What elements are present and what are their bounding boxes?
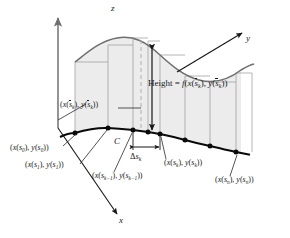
partition-dot	[106, 126, 111, 131]
sub-skm1-b: k−1	[129, 175, 138, 181]
point-label-sk-minus-1: (x(sk−1), y(sk−1))	[92, 172, 142, 180]
partition-dot	[183, 138, 188, 143]
x-axis	[58, 128, 117, 214]
y-axis	[177, 33, 242, 72]
sub-sn-b: n	[246, 179, 249, 185]
point-label-s1: (x(s1), y(s1))	[25, 161, 64, 169]
sub-sk-b: k	[194, 162, 196, 168]
sub-sbar-b: k	[90, 104, 92, 110]
delta-s-k-label: Δsk	[130, 152, 141, 161]
height-word: Height	[148, 78, 173, 88]
point-label-sbar-k: (x(sk), y(sk))	[60, 101, 98, 109]
equals-sign: =	[175, 78, 180, 88]
sub-skm1-a: k−1	[104, 175, 113, 181]
sub-k-1: k	[198, 83, 201, 89]
partition-dot	[208, 144, 213, 149]
sub-k-delta: k	[139, 156, 142, 162]
axis-label-x: x	[119, 216, 123, 225]
partition-dot	[146, 130, 151, 135]
height-equation-label: Height = f(x(sk), y(sk))	[148, 79, 227, 88]
axis-label-z: z	[111, 4, 115, 13]
sub-s1-b: 1	[56, 164, 59, 170]
line-integral-curtain-figure: z y x C Height = f(x(sk), y(sk)) (x(sk),…	[0, 0, 290, 238]
axis-label-y: y	[246, 34, 250, 43]
sub-s0-b: 0	[41, 147, 44, 153]
sub-s1-a: 1	[37, 164, 40, 170]
sub-s0-a: 0	[22, 147, 25, 153]
partition-dot	[234, 150, 239, 155]
point-label-sk: (x(sk), y(sk))	[164, 159, 202, 167]
point-label-s0: (x(s0), y(s0))	[10, 144, 49, 152]
sub-sn-a: n	[227, 179, 230, 185]
point-label-sn: (x(sn), y(sn))	[215, 176, 254, 184]
curve-label-c: C	[114, 137, 120, 146]
